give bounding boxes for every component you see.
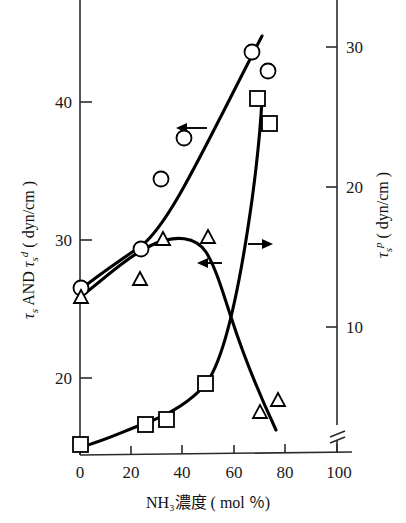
right-tick-label-20: 20 (346, 178, 363, 197)
data-point-circle[interactable] (261, 64, 276, 79)
chart-canvas: 40 30 20 30 20 10 0 20 40 60 80 100 NH₃濃… (0, 0, 406, 523)
figure-container: 40 30 20 30 20 10 0 20 40 60 80 100 NH₃濃… (0, 0, 406, 523)
x-tick-label-40: 40 (174, 463, 191, 482)
right-axis-title-units: ( dyn/cm ) (374, 172, 392, 243)
svg-text:τsp ( dyn/cm ): τsp ( dyn/cm ) (372, 172, 394, 258)
data-point-square[interactable] (73, 437, 88, 452)
left-tick-label-30: 30 (55, 231, 72, 250)
curve-tau-s-p (81, 98, 262, 447)
arrow-to-right-axis (248, 239, 273, 249)
curve-tau-s (81, 36, 262, 289)
arrowhead-left-lower (197, 258, 208, 268)
x-tick-label-20: 20 (123, 463, 140, 482)
right-tick-labels: 30 20 10 (346, 38, 363, 337)
x-tick-label-60: 60 (226, 463, 243, 482)
data-point-square[interactable] (262, 116, 277, 131)
data-point-circle[interactable] (177, 131, 192, 146)
right-tick-label-30: 30 (346, 38, 363, 57)
left-tick-labels: 40 30 20 (55, 93, 72, 388)
x-axis-title: NH₃濃度 ( mol ％) (146, 494, 270, 512)
left-axis-title-units: ( dyn/cm ) (20, 181, 38, 252)
data-point-triangle[interactable] (201, 230, 215, 243)
data-point-triangle[interactable] (271, 393, 285, 406)
data-point-circle[interactable] (134, 242, 149, 257)
data-point-circle[interactable] (245, 45, 260, 60)
x-tick-labels: 0 20 40 60 80 100 (76, 463, 352, 482)
series-tau-s-d-markers (74, 230, 285, 418)
x-axis-line (80, 452, 352, 455)
right-axis-ticks (326, 47, 337, 327)
x-tick-label-80: 80 (277, 463, 294, 482)
axis-lines (80, 0, 352, 455)
x-tick-label-0: 0 (76, 463, 85, 482)
data-point-square[interactable] (138, 417, 153, 432)
series-tau-s-markers (74, 45, 276, 296)
right-tick-label-10: 10 (346, 318, 363, 337)
x-tick-label-100: 100 (326, 463, 352, 482)
right-axis-title: τsp ( dyn/cm ) (372, 172, 394, 258)
left-tick-label-40: 40 (55, 93, 72, 112)
data-point-square[interactable] (159, 412, 174, 427)
data-point-circle[interactable] (154, 172, 169, 187)
data-point-triangle[interactable] (133, 272, 147, 285)
left-axis-title-and: AND (20, 267, 37, 309)
arrowhead-right (262, 239, 273, 249)
svg-text:τs AND τsd ( dyn/cm ): τs AND τsd ( dyn/cm ) (18, 181, 40, 319)
left-tick-label-20: 20 (55, 369, 72, 388)
data-point-square[interactable] (250, 91, 265, 106)
data-point-square[interactable] (198, 376, 213, 391)
left-axis-title: τs AND τsd ( dyn/cm ) (18, 181, 40, 319)
left-axis-ticks (80, 102, 92, 378)
